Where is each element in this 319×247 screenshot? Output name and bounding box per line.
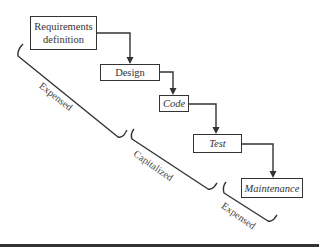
stage-box-maintenance: Maintenance [241,178,303,198]
stage-label: Design [115,66,145,79]
stage-label: Code [163,97,185,110]
arrowhead-icon [213,127,220,134]
flow-arrow-design-code [160,72,177,95]
stage-box-requirements-definition: Requirements definition [30,16,97,50]
flow-arrow-test-maintenance [242,144,277,178]
stage-box-code: Code [159,95,189,112]
stage-label: Maintenance [245,182,300,195]
stage-label-line2: definition [43,33,84,46]
arrowhead-icon [170,88,177,95]
stage-box-test: Test [193,134,242,153]
stage-label-line1: Requirements [34,20,92,33]
stage-box-design: Design [100,64,160,81]
brace-expensed-1 [18,44,127,137]
arrowhead-icon [270,171,277,178]
flow-arrow-code-test [188,104,220,134]
stage-label: Test [209,137,226,150]
flow-arrow-requirements-design [97,33,134,64]
waterfall-diagram: Requirements definition Design Code Test… [0,0,319,247]
arrowhead-icon [127,57,134,64]
